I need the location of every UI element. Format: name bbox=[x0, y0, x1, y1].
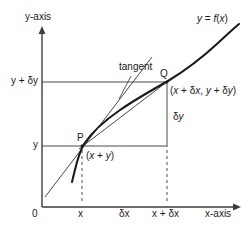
y-tick-label-y: y bbox=[33, 140, 38, 150]
origin-label: 0 bbox=[32, 209, 38, 219]
point-q-coords-label: (x + δx, y + δy) bbox=[170, 86, 236, 96]
delta-y-label: δy bbox=[173, 112, 184, 122]
y-axis bbox=[39, 26, 46, 207]
x-axis-label: x-axis bbox=[205, 209, 231, 219]
x-tick-label-delta-x: δx bbox=[119, 209, 130, 219]
curve-label: y = f(x) bbox=[197, 14, 228, 24]
diagram-canvas bbox=[0, 0, 249, 239]
point-q-marker bbox=[166, 81, 169, 84]
y-axis-label: y-axis bbox=[25, 12, 51, 22]
x-tick-label-x: x bbox=[78, 209, 83, 219]
point-p-coords-label: (x + y) bbox=[86, 151, 114, 161]
y-tick-label-y-plus-dy: y + δy bbox=[11, 76, 38, 86]
point-p-marker bbox=[81, 145, 84, 148]
tangent-label: tangent bbox=[119, 62, 152, 72]
x-tick-label-x-plus-delta-x: x + δx bbox=[152, 209, 179, 219]
derivative-diagram: y-axis y = f(x) tangent y + δy y P Q (x … bbox=[0, 0, 249, 239]
point-q-label: Q bbox=[160, 69, 168, 79]
point-p-label: P bbox=[77, 133, 84, 143]
